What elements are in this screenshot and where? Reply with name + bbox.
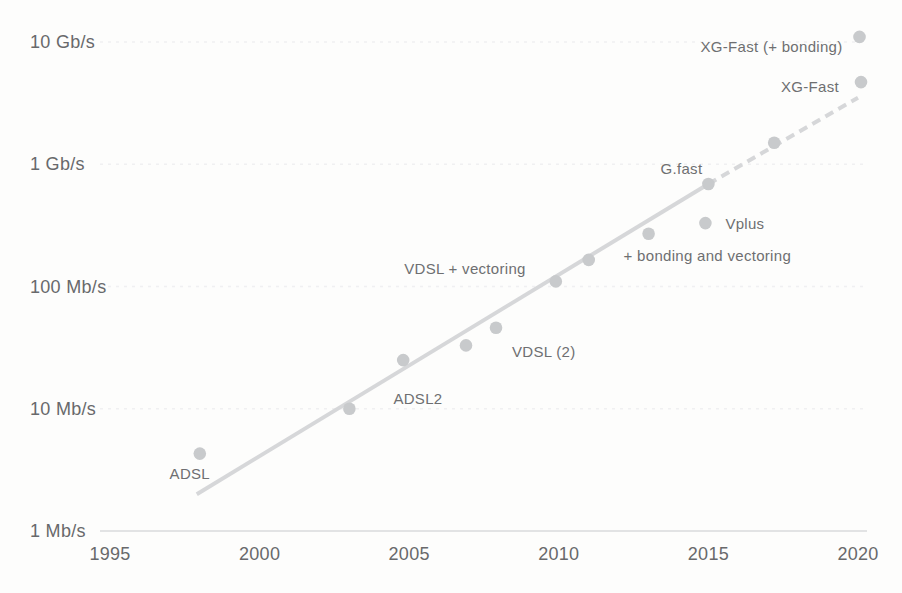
data-point-adsl2 [343, 403, 356, 416]
x-tick-label-2010: 2010 [538, 544, 579, 564]
point-label-adsl: ADSL [170, 465, 210, 482]
point-label-vplus: Vplus [725, 215, 764, 232]
data-point-bonding-vectoring [642, 228, 655, 241]
data-point-xgfast-trial [768, 136, 781, 149]
data-point-vdsl-vectoring [582, 254, 595, 267]
point-label-xgfast-bonding: XG-Fast (+ bonding) [700, 38, 842, 55]
point-label-xgfast: XG-Fast [781, 78, 839, 95]
y-tick-label-100-mb-s: 100 Mb/s [30, 277, 106, 297]
trend-line-dashed [708, 98, 858, 184]
point-label-vdsl-vectoring: VDSL + vectoring [404, 260, 525, 277]
data-point-xgfast-bonding [853, 31, 866, 44]
point-label-gfast: G.fast [661, 160, 703, 177]
x-tick-label-2020: 2020 [837, 544, 878, 564]
y-tick-label-1-mb-s: 1 Mb/s [30, 521, 86, 541]
data-point-vplus [699, 217, 712, 230]
trend-line-solid [197, 184, 709, 494]
y-tick-label-10-gb-s: 10 Gb/s [30, 32, 95, 52]
y-tick-label-1-gb-s: 1 Gb/s [30, 154, 85, 174]
x-tick-label-2005: 2005 [389, 544, 430, 564]
x-tick-label-2015: 2015 [688, 544, 729, 564]
dsl-speed-evolution-figure: ADSLADSL2VDSL (2)VDSL + vectoring+ bondi… [0, 0, 902, 593]
data-point-vdsl [460, 339, 473, 352]
data-point-xgfast [855, 76, 868, 89]
point-label-vdsl2: VDSL (2) [512, 343, 576, 360]
point-label-adsl2: ADSL2 [393, 390, 442, 407]
data-point-gfast [702, 178, 715, 191]
x-tick-label-1995: 1995 [89, 544, 130, 564]
point-label-bonding-vectoring: + bonding and vectoring [624, 247, 791, 264]
speed-evolution-chart: ADSLADSL2VDSL (2)VDSL + vectoring+ bondi… [0, 0, 902, 593]
x-tick-label-2000: 2000 [239, 544, 280, 564]
data-point-vdsl2-100 [550, 275, 563, 288]
y-tick-label-10-mb-s: 10 Mb/s [30, 399, 96, 419]
data-point-vdsl2 [490, 321, 503, 334]
data-point-adsl2plus [397, 354, 410, 367]
data-point-adsl [194, 447, 207, 460]
